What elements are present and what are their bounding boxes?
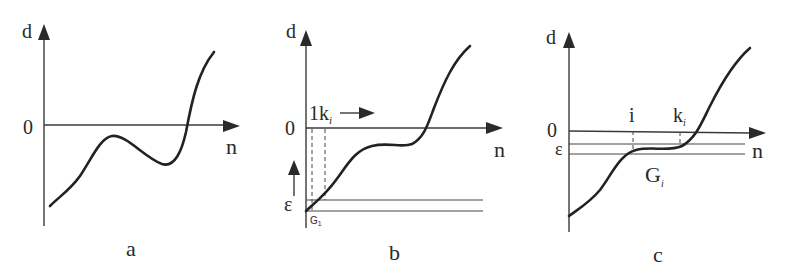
- tick-k-label: ki: [673, 104, 686, 128]
- panel-caption: b: [389, 240, 400, 265]
- panel-b: d 0 n 1ki ε G1 b: [284, 20, 505, 265]
- y-axis-label: d: [286, 20, 296, 42]
- y-axis-arrow-icon: [300, 30, 312, 46]
- y-axis-arrow-icon: [563, 32, 575, 48]
- y-axis-arrow-icon: [38, 24, 50, 40]
- x-axis-label: n: [494, 137, 505, 162]
- band-label: Gi: [645, 162, 664, 189]
- panel-caption: c: [653, 242, 663, 267]
- zero-label: 0: [547, 119, 557, 141]
- epsilon-label: ε: [555, 139, 563, 159]
- zero-label: 0: [285, 117, 295, 139]
- x-axis-arrow-icon: [486, 122, 503, 134]
- panel-a: d 0 n a: [22, 20, 240, 261]
- panel-caption: a: [126, 236, 136, 261]
- band-label: G1: [310, 215, 322, 227]
- right-arrow-icon: [359, 107, 375, 119]
- tick-i-label: i: [629, 104, 635, 126]
- y-axis-label: d: [22, 20, 32, 42]
- x-axis-arrow-icon: [223, 120, 240, 132]
- epsilon-label: ε: [284, 193, 292, 215]
- x-axis-label: n: [752, 138, 763, 163]
- x-axis: [569, 131, 752, 133]
- y-axis-label: d: [546, 26, 556, 48]
- up-arrow-icon: [288, 160, 300, 175]
- index-label: 1ki: [309, 102, 332, 126]
- x-axis-label: n: [226, 134, 237, 159]
- figure-canvas: d 0 n a d 0 n 1ki ε G1 b: [0, 0, 785, 273]
- curve-a: [50, 52, 214, 206]
- panel-c: d 0 ε i ki n Gi c: [546, 26, 766, 267]
- zero-label: 0: [23, 116, 33, 138]
